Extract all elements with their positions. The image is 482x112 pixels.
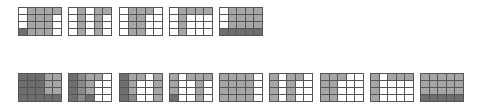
grid-cell [270, 81, 278, 87]
bottom-grid-5 [219, 73, 263, 102]
grid-cell [254, 88, 262, 94]
grid-cell [36, 95, 44, 101]
grid-cell [19, 29, 27, 35]
grid-cell [254, 8, 262, 14]
grid-cell [304, 74, 312, 80]
grid-cell [53, 15, 61, 21]
grid-cell [196, 74, 204, 80]
grid-cell [347, 74, 355, 80]
grid-cell [69, 74, 77, 80]
grid-cell [438, 88, 446, 94]
grid-cell [237, 95, 245, 101]
grid-cell [120, 74, 128, 80]
grid-cell [19, 22, 27, 28]
grid-cell [279, 95, 287, 101]
grid-cell [137, 22, 145, 28]
grid-cell [129, 29, 137, 35]
grid-cell [45, 8, 53, 14]
grid-cell [86, 88, 94, 94]
grid-cell [430, 74, 438, 80]
grid-cell [220, 95, 228, 101]
grid-cell [204, 22, 212, 28]
grid-cell [296, 95, 304, 101]
grid-cell [36, 22, 44, 28]
grid-cell [137, 81, 145, 87]
grid-cell [187, 95, 195, 101]
grid-cell [447, 81, 455, 87]
grid-cell [45, 15, 53, 21]
bottom-grid-3 [119, 73, 163, 102]
grid-cell [69, 95, 77, 101]
grid-cell [229, 95, 237, 101]
grid-cell [229, 8, 237, 14]
grid-cell [246, 95, 254, 101]
grid-cell [430, 88, 438, 94]
grid-cell [120, 81, 128, 87]
grid-cell [237, 15, 245, 21]
grid-cell [388, 95, 396, 101]
grid-cell [204, 8, 212, 14]
grid-cell [120, 8, 128, 14]
grid-cell [86, 29, 94, 35]
top-grid-4 [169, 7, 213, 36]
bottom-grid-9 [420, 73, 464, 102]
grid-cell [154, 88, 162, 94]
grid-cell [430, 95, 438, 101]
grid-cell [347, 88, 355, 94]
grid-cell [338, 81, 346, 87]
grid-cell [270, 74, 278, 80]
grid-cell [53, 22, 61, 28]
grid-cell [397, 81, 405, 87]
grid-cell [69, 29, 77, 35]
grid-cell [19, 74, 27, 80]
grid-cell [154, 29, 162, 35]
grid-cell [103, 81, 111, 87]
grid-cell [154, 81, 162, 87]
grid-cell [237, 88, 245, 94]
grid-cell [170, 22, 178, 28]
grid-cell [355, 95, 363, 101]
grid-cell [179, 29, 187, 35]
grid-cell [53, 8, 61, 14]
grid-cell [229, 81, 237, 87]
grid-cell [287, 81, 295, 87]
grid-cell [237, 74, 245, 80]
grid-cell [438, 95, 446, 101]
grid-cell [179, 8, 187, 14]
grid-cell [388, 88, 396, 94]
grid-cell [28, 22, 36, 28]
grid-cell [146, 22, 154, 28]
grid-cell [69, 15, 77, 21]
grid-cell [78, 8, 86, 14]
grid-cell [137, 74, 145, 80]
grid-cell [421, 81, 429, 87]
grid-cell [28, 29, 36, 35]
grid-cell [246, 15, 254, 21]
grid-cell [95, 22, 103, 28]
grid-cell [220, 22, 228, 28]
grid-cell [53, 29, 61, 35]
top-grid-3 [119, 7, 163, 36]
grid-cell [103, 88, 111, 94]
grid-cell [237, 8, 245, 14]
grid-cell [19, 88, 27, 94]
grid-cell [170, 15, 178, 21]
grid-cell [237, 81, 245, 87]
grid-cell [220, 81, 228, 87]
grid-cell [179, 22, 187, 28]
grid-cell [254, 95, 262, 101]
grid-cell [69, 8, 77, 14]
grid-cell [154, 22, 162, 28]
grid-cell [170, 29, 178, 35]
grid-cell [380, 81, 388, 87]
bottom-grid-6 [269, 73, 313, 102]
grid-cell [371, 74, 379, 80]
grid-cell [170, 74, 178, 80]
grid-cell [397, 95, 405, 101]
grid-cell [53, 81, 61, 87]
grid-cell [146, 15, 154, 21]
grid-cell [438, 74, 446, 80]
grid-cell [36, 8, 44, 14]
grid-cell [187, 15, 195, 21]
grid-cell [154, 74, 162, 80]
